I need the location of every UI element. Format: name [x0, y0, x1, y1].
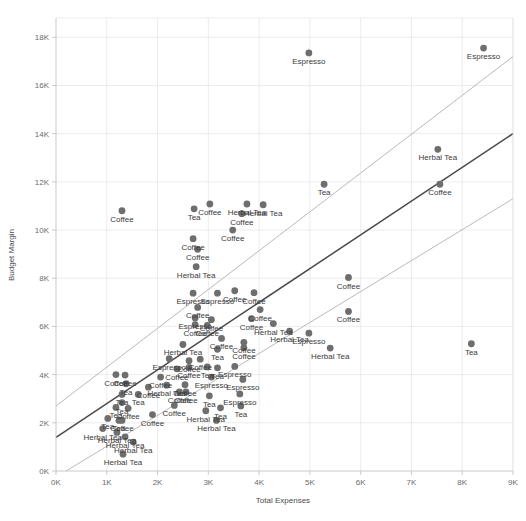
- data-point-label: Herbal Tea: [244, 209, 283, 218]
- data-point[interactable]: [190, 235, 197, 242]
- data-point-label: Tea: [203, 400, 216, 409]
- data-point-label: Espresso: [292, 57, 326, 66]
- data-point[interactable]: [480, 45, 487, 52]
- y-tick-label: 18K: [35, 33, 50, 42]
- data-point-label: Espresso: [292, 337, 326, 346]
- data-point-label: Coffee: [232, 352, 256, 361]
- y-tick-label: 6K: [39, 322, 49, 331]
- data-point[interactable]: [345, 274, 352, 281]
- data-point[interactable]: [113, 371, 120, 378]
- y-tick-label: 2K: [39, 419, 49, 428]
- data-point-label: Coffee: [337, 315, 361, 324]
- data-point-label: Coffee: [110, 215, 134, 224]
- data-point-label: Coffee: [141, 419, 165, 428]
- data-point-label: Coffee: [428, 188, 452, 197]
- data-point-label: Espresso: [226, 383, 260, 392]
- data-point[interactable]: [206, 392, 213, 399]
- data-point-label: Coffee: [196, 329, 220, 338]
- data-point[interactable]: [468, 340, 475, 347]
- data-point[interactable]: [218, 335, 225, 342]
- y-tick-label: 0K: [39, 467, 49, 476]
- y-tick-label: 16K: [35, 81, 50, 90]
- y-axis-title: Budget Margin: [7, 229, 16, 281]
- data-point-label: Tea: [132, 398, 145, 407]
- x-tick-label: 7K: [407, 478, 417, 487]
- x-tick-labels-group: 0K1K2K3K4K5K6K7K8K9K: [51, 478, 518, 487]
- y-tick-label: 14K: [35, 130, 50, 139]
- data-point-label: Herbal Tea: [187, 415, 226, 424]
- data-point[interactable]: [345, 308, 352, 315]
- data-point-label: Espresso: [195, 381, 229, 390]
- data-point[interactable]: [157, 374, 164, 381]
- data-point[interactable]: [180, 341, 187, 348]
- data-point[interactable]: [327, 345, 334, 352]
- data-point-label: Coffee: [242, 297, 266, 306]
- data-point-label: Coffee: [210, 342, 234, 351]
- data-point-label: Tea: [120, 388, 133, 397]
- data-point[interactable]: [206, 201, 213, 208]
- point-labels-group: EspressoEspressoHerbal TeaCoffeeTeaCoffe…: [83, 52, 500, 467]
- data-point-label: Coffee: [116, 412, 140, 421]
- data-point-label: Coffee: [221, 234, 245, 243]
- scatter-chart: 0K1K2K3K4K5K6K7K8K9K 0K2K4K6K8K10K12K14K…: [0, 0, 526, 521]
- data-point-label: Tea: [465, 348, 478, 357]
- data-point-label: Herbal Tea: [164, 348, 203, 357]
- data-point[interactable]: [149, 411, 156, 418]
- x-tick-label: 2K: [153, 478, 163, 487]
- data-point[interactable]: [251, 289, 258, 296]
- data-point-label: Tea: [211, 353, 224, 362]
- y-tick-label: 8K: [39, 274, 49, 283]
- data-point-label: Espresso: [218, 370, 252, 379]
- y-tick-label: 12K: [35, 178, 50, 187]
- data-point[interactable]: [231, 363, 238, 370]
- data-point[interactable]: [122, 372, 129, 379]
- data-point[interactable]: [321, 181, 328, 188]
- data-point[interactable]: [257, 306, 264, 313]
- data-point[interactable]: [229, 227, 236, 234]
- plot-svg: 0K1K2K3K4K5K6K7K8K9K 0K2K4K6K8K10K12K14K…: [0, 0, 526, 521]
- x-axis-title: Total Expenses: [256, 496, 310, 505]
- x-tick-label: 0K: [51, 478, 61, 487]
- x-tick-label: 9K: [508, 478, 518, 487]
- data-point-label: Coffee: [337, 282, 361, 291]
- data-point-label: Herbal Tea: [311, 352, 350, 361]
- data-point-label: Herbal Tea: [197, 424, 236, 433]
- x-tick-label: 8K: [457, 478, 467, 487]
- data-point-label: Herbal Tea: [114, 446, 153, 455]
- data-point[interactable]: [214, 290, 221, 297]
- data-point-label: Herbal Tea: [419, 153, 458, 162]
- x-tick-label: 1K: [102, 478, 112, 487]
- data-point[interactable]: [244, 201, 251, 208]
- data-point-label: Coffee: [186, 253, 210, 262]
- data-point[interactable]: [231, 287, 238, 294]
- x-tick-label: 5K: [305, 478, 315, 487]
- data-point[interactable]: [119, 207, 126, 214]
- data-point[interactable]: [193, 263, 200, 270]
- y-tick-label: 10K: [35, 226, 50, 235]
- data-point-label: Espresso: [223, 398, 257, 407]
- data-point-label: Coffee: [198, 208, 222, 217]
- x-tick-label: 4K: [254, 478, 264, 487]
- data-point-label: Coffee: [248, 314, 272, 323]
- data-point-label: Coffee: [186, 311, 210, 320]
- data-point-label: Herbal Tea: [177, 271, 216, 280]
- y-tick-label: 4K: [39, 371, 49, 380]
- data-point-label: Herbal Tea: [104, 458, 143, 467]
- data-point-label: Espresso: [467, 52, 501, 61]
- data-point[interactable]: [190, 290, 197, 297]
- trendline-upper-bound: [56, 57, 513, 406]
- data-point-label: Tea: [318, 188, 331, 197]
- data-point[interactable]: [434, 146, 441, 153]
- data-point-label: Coffee: [177, 371, 201, 380]
- data-point-label: Tea: [234, 410, 247, 419]
- x-tick-label: 6K: [356, 478, 366, 487]
- data-point[interactable]: [305, 50, 312, 57]
- data-point[interactable]: [436, 181, 443, 188]
- x-tick-label: 3K: [203, 478, 213, 487]
- data-point[interactable]: [191, 205, 198, 212]
- data-point-label: Coffee: [174, 396, 198, 405]
- data-point[interactable]: [182, 381, 189, 388]
- data-point-label: Coffee: [230, 218, 254, 227]
- data-point-label: Coffee: [181, 243, 205, 252]
- data-point-label: Coffee: [163, 409, 187, 418]
